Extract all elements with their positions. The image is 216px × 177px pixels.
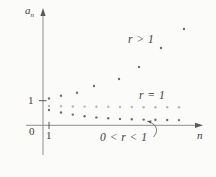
r-equals-1-point bbox=[166, 106, 168, 108]
r-between-0-and-1-point bbox=[95, 116, 97, 118]
y-axis-arrowhead-icon bbox=[40, 8, 45, 16]
r-between-0-and-1-point bbox=[154, 119, 156, 121]
r-equals-1-point bbox=[83, 105, 85, 107]
r-between-0-and-1-point bbox=[178, 119, 180, 121]
series-label-r-equals-1: r = 1 bbox=[139, 90, 165, 102]
x-axis-arrowhead-icon bbox=[195, 123, 203, 128]
r-equals-1-point bbox=[72, 105, 74, 107]
r-between-0-and-1-point bbox=[119, 118, 121, 120]
annotation-arrowhead-icon bbox=[147, 120, 152, 123]
sequence-behavior-figure: an n 0 1 1 r > 1 r = 1 0 < r < 1 bbox=[0, 0, 216, 177]
r-equals-1-point bbox=[95, 106, 97, 108]
r-greater-than-1-point bbox=[118, 78, 120, 80]
r-equals-1-point bbox=[119, 106, 121, 108]
r-between-0-and-1-point bbox=[166, 119, 168, 121]
r-between-0-and-1-point bbox=[107, 117, 109, 119]
r-greater-than-1-point bbox=[60, 95, 62, 97]
y-axis-label: an bbox=[25, 5, 34, 19]
plot-canvas bbox=[0, 0, 216, 177]
r-greater-than-1-point bbox=[183, 28, 185, 30]
r-equals-1-point bbox=[154, 106, 156, 108]
series-label-r-greater-than-1: r > 1 bbox=[128, 34, 154, 46]
x-tick-1-label: 1 bbox=[46, 130, 52, 141]
r-equals-1-point bbox=[142, 106, 144, 108]
r-between-0-and-1-point bbox=[142, 118, 144, 120]
r-equals-1-point bbox=[107, 106, 109, 108]
x-axis-label: n bbox=[197, 130, 203, 141]
y-tick-1-label: 1 bbox=[28, 95, 34, 106]
series-label-r-between-0-and-1: 0 < r < 1 bbox=[100, 132, 148, 144]
r-greater-than-1-point bbox=[160, 47, 162, 49]
r-equals-1-point bbox=[60, 105, 62, 107]
origin-label: 0 bbox=[29, 126, 35, 137]
annotation-arrow-curve bbox=[150, 122, 157, 137]
y-axis-label-sub: n bbox=[31, 11, 35, 19]
r-between-0-and-1-point bbox=[83, 115, 85, 117]
r-equals-1-point bbox=[178, 106, 180, 108]
r-equals-1-point bbox=[48, 105, 50, 107]
r-equals-1-point bbox=[131, 106, 133, 108]
r-greater-than-1-point bbox=[93, 85, 95, 87]
r-greater-than-1-point bbox=[76, 92, 78, 94]
r-greater-than-1-point bbox=[138, 66, 140, 68]
r-between-0-and-1-point bbox=[48, 109, 50, 111]
r-between-0-and-1-point bbox=[60, 111, 62, 113]
r-between-0-and-1-point bbox=[131, 118, 133, 120]
r-greater-than-1-point bbox=[48, 97, 50, 99]
data-points-layer bbox=[48, 28, 185, 122]
r-between-0-and-1-point bbox=[72, 113, 74, 115]
